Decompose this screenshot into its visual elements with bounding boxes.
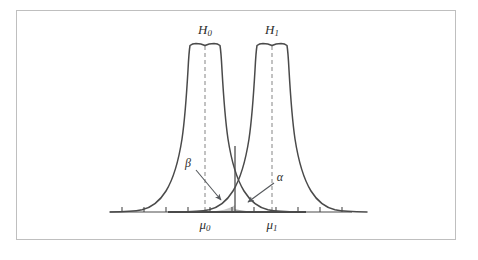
axis-ticks	[122, 207, 342, 212]
label-alpha: α	[277, 170, 284, 184]
label-mu0: μ0	[199, 217, 212, 233]
mean-lines	[205, 46, 272, 212]
label-h1: H1	[264, 22, 279, 38]
figure-root: H0 H1 μ0 μ1 β α	[0, 0, 478, 260]
error-regions	[110, 45, 352, 212]
label-h0: H0	[197, 22, 212, 38]
label-beta: β	[184, 156, 191, 170]
beta-leader-arrow	[196, 170, 221, 200]
alpha-region	[110, 45, 285, 212]
chart-labels: H0 H1 μ0 μ1 β α	[184, 22, 284, 233]
alpha-leader-arrow	[248, 183, 274, 202]
distribution-curves	[110, 44, 367, 213]
label-mu1: μ1	[266, 217, 278, 233]
hypothesis-test-chart: H0 H1 μ0 μ1 β α	[0, 0, 478, 260]
